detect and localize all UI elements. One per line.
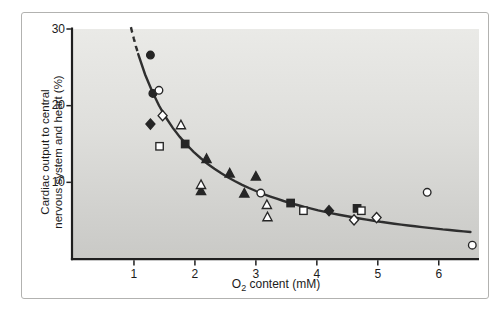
y-axis-title-line1: Cardiac output to central — [39, 52, 52, 252]
data-point-filled-circle — [147, 51, 155, 59]
y-axis-title-line2: nervous system and heart (%) — [52, 52, 65, 252]
data-point-open-square — [358, 207, 365, 214]
trend-curve-dashed — [131, 27, 138, 54]
x-tick-label: 1 — [119, 267, 149, 281]
data-point-open-triangle — [262, 200, 271, 209]
data-point-filled-triangle — [225, 169, 234, 178]
data-point-filled-diamond — [146, 119, 155, 129]
x-tick-label: 6 — [424, 267, 454, 281]
page: { "figure": { "xlabel": { "prefix": "O",… — [0, 0, 503, 317]
y-axis-title: Cardiac output to central nervous system… — [39, 52, 65, 252]
data-point-filled-triangle — [251, 172, 260, 181]
x-axis-title-prefix: O — [232, 277, 241, 291]
x-tick-label: 5 — [363, 267, 393, 281]
data-point-open-triangle — [176, 120, 185, 129]
data-point-filled-triangle — [240, 188, 249, 197]
data-point-filled-triangle — [202, 154, 211, 163]
data-point-open-circle — [155, 87, 163, 95]
data-point-open-triangle — [263, 212, 272, 221]
y-tick-label: 20 — [31, 98, 65, 113]
data-point-open-triangle — [196, 180, 205, 189]
data-point-open-circle — [257, 189, 265, 197]
x-tick-label: 4 — [302, 267, 332, 281]
data-point-filled-square — [287, 199, 294, 206]
data-point-open-square — [300, 207, 307, 214]
data-point-open-circle — [468, 241, 476, 249]
x-tick-label: 2 — [180, 267, 210, 281]
x-tick-label: 3 — [241, 267, 271, 281]
y-tick-label: 30 — [31, 22, 65, 37]
data-point-open-square — [156, 143, 163, 150]
y-tick-label: 10 — [31, 175, 65, 190]
data-point-open-circle — [423, 189, 431, 197]
data-point-filled-square — [181, 140, 188, 147]
